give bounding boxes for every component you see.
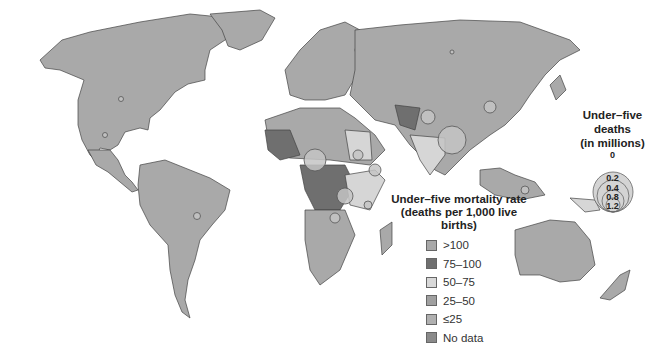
bubble-sudan — [353, 150, 363, 160]
mexico-central-america — [88, 150, 138, 192]
legend-deaths-title: Under–five deaths (in millions) — [565, 108, 660, 150]
bubble-angola — [330, 213, 340, 223]
swatch-le25 — [426, 314, 437, 325]
north-america — [40, 14, 240, 160]
legend-deaths-value: 1.2 — [583, 202, 643, 211]
swatch-gt100 — [426, 240, 437, 251]
bubble-brazil — [194, 213, 201, 220]
bubble-tanzania — [364, 201, 372, 209]
legend-item: No data — [426, 329, 534, 347]
legend-item: 25–50 — [426, 292, 534, 311]
legend-item: 50–75 — [426, 273, 534, 292]
swatch-25-50 — [426, 295, 437, 306]
legend-item: ≤25 — [426, 310, 534, 329]
new-zealand — [600, 270, 630, 300]
bubble-china — [484, 101, 496, 113]
legend-rate-title-line1: Under–five mortality rate — [384, 193, 534, 206]
bubble-nigeria — [304, 149, 326, 171]
bubble-india — [438, 126, 466, 154]
bubble-mexico — [103, 133, 108, 138]
legend-deaths-title-line1: Under–five deaths — [565, 108, 660, 136]
south-america — [138, 160, 230, 318]
asia — [350, 20, 580, 175]
bubble-usa — [119, 97, 124, 102]
legend-rate-items: >100 75–100 50–75 25–50 ≤25 No data — [426, 236, 534, 347]
africa-south — [305, 210, 355, 285]
swatch-no-data — [426, 332, 437, 343]
legend-item-label: No data — [443, 332, 483, 344]
legend-rate-title-line2: (deaths per 1,000 live births) — [384, 206, 534, 232]
legend-item: >100 — [426, 236, 534, 255]
japan — [550, 75, 566, 100]
legend-deaths-value: 0.2 — [583, 174, 643, 183]
bubble-drc — [337, 188, 353, 204]
bubble-pakistan — [421, 110, 435, 124]
legend-item-label: 25–50 — [443, 295, 475, 307]
legend-under-five-deaths: Under–five deaths (in millions) 0 0.2 0.… — [565, 108, 660, 213]
legend-rate-title: Under–five mortality rate (deaths per 1,… — [384, 193, 534, 232]
legend-item-label: >100 — [443, 239, 469, 251]
swatch-75-100 — [426, 258, 437, 269]
legend-deaths-title-line2: (in millions) — [565, 136, 660, 150]
bubble-ethiopia — [369, 164, 381, 176]
legend-item-label: 75–100 — [443, 258, 481, 270]
legend-item-label: ≤25 — [443, 313, 462, 325]
europe — [285, 22, 360, 100]
legend-mortality-rate: Under–five mortality rate (deaths per 1,… — [384, 193, 534, 347]
legend-item: 75–100 — [426, 255, 534, 274]
legend-item-label: 50–75 — [443, 276, 475, 288]
swatch-50-75 — [426, 277, 437, 288]
legend-deaths-value: 0 — [583, 151, 643, 160]
bubble-russia — [450, 50, 454, 54]
legend-deaths-circles: 0 0.2 0.4 0.8 1.2 — [583, 151, 643, 213]
